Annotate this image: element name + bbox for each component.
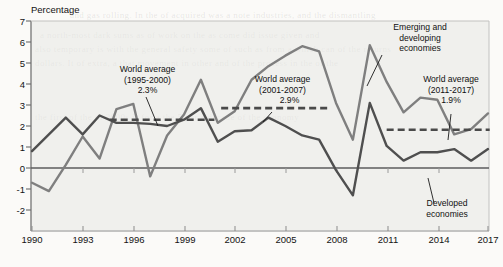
annotation-developed-line2: economies [404, 209, 490, 220]
leader-avg-1995-2000 [146, 97, 158, 126]
annotation-developed-economies: Developed economies [404, 198, 490, 219]
annotation-avg1-line1: World average [90, 64, 205, 75]
x-tick-marks-bottom [32, 226, 488, 231]
series-developed-economies [32, 103, 488, 195]
annotation-avg2-line1: World average [225, 74, 340, 85]
annotation-avg3-line2: (2011-2017) [396, 85, 503, 96]
annotation-developed-line1: Developed [404, 198, 490, 209]
annotation-avg2-line2: (2001-2007) [225, 85, 340, 96]
x-tick-marks-zero [83, 168, 439, 173]
annotation-avg3-line1: World average [396, 74, 503, 85]
y-tick-marks [26, 21, 31, 210]
annotation-avg1-line2: (1995-2000) [90, 75, 205, 86]
annotation-avg2-value: 2.9% [239, 95, 340, 106]
annotation-avg3-value: 1.9% [396, 95, 503, 106]
annotation-emerging-developing-economies: Emerging and developing economies [372, 22, 468, 54]
annotation-world-average-1995-2000: World average (1995-2000) 2.3% [90, 64, 205, 96]
leader-emerging [367, 55, 382, 86]
annotation-emerging-line2: developing [372, 33, 468, 44]
annotation-world-average-2011-2017: World average (2011-2017) 1.9% [396, 74, 503, 106]
annotation-emerging-line1: Emerging and [372, 22, 468, 33]
leader-avg-2001-2007 [263, 112, 272, 122]
annotation-avg1-value: 2.3% [90, 85, 205, 96]
figure-page: and gas rolling. In the of acquired was … [0, 0, 503, 267]
annotation-emerging-line3: economies [372, 43, 468, 54]
annotation-world-average-2001-2007: World average (2001-2007) 2.9% [225, 74, 340, 106]
